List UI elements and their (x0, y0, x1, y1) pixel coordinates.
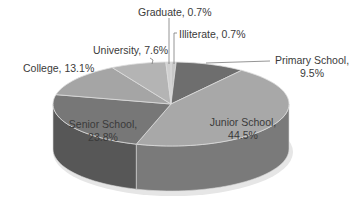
label-primary-school-value: 9.5% (272, 67, 352, 80)
label-college: College, 13.1% (23, 62, 94, 75)
label-primary-school-name: Primary School, (272, 54, 352, 67)
label-graduate: Graduate, 0.7% (138, 6, 212, 19)
label-senior-school: Senior School, 23.8% (58, 118, 148, 144)
leader-line-primary-school (206, 61, 270, 63)
label-junior-school-name: Junior School, (198, 116, 288, 129)
label-senior-school-value: 23.8% (58, 131, 148, 144)
label-primary-school: Primary School, 9.5% (272, 54, 352, 80)
leader-line-illiterate (174, 33, 177, 64)
pie-chart: Graduate, 0.7% Illiterate, 0.7% Universi… (0, 0, 360, 208)
label-senior-school-name: Senior School, (58, 118, 148, 131)
label-university: University, 7.6% (93, 44, 168, 57)
label-junior-school-value: 44.5% (198, 129, 288, 142)
label-junior-school: Junior School, 44.5% (198, 116, 288, 142)
label-illiterate: Illiterate, 0.7% (179, 28, 246, 41)
